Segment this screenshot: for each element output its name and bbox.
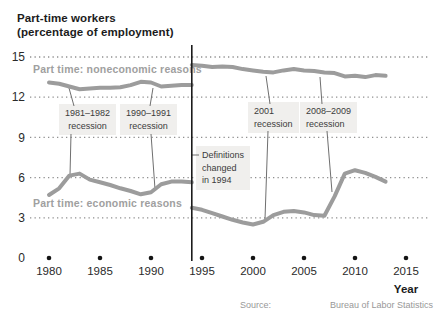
annotation-text: recession	[254, 118, 293, 131]
y-tick-0: 0	[0, 250, 25, 266]
annotation-text: Definitions	[202, 149, 244, 162]
title-line-2: (percentage of employment)	[17, 26, 174, 40]
y-tick-12: 12	[0, 89, 25, 105]
x-tick-2000: 2000	[233, 264, 273, 278]
y-tick-15: 15	[0, 49, 25, 65]
x-tick-1995: 1995	[182, 264, 222, 278]
y-tick-3: 3	[0, 210, 25, 226]
source-text: Bureau of Labor Statistics	[330, 300, 433, 309]
annotation-text: changed	[202, 162, 244, 175]
annotation-text: 1981–1982	[65, 107, 110, 120]
series-label-economic: Part time: economic reasons	[33, 197, 182, 209]
x-axis-title: Year	[386, 283, 426, 295]
annotation-recession-1990-1991: 1990–1991 recession	[120, 104, 177, 135]
y-tick-9: 9	[0, 130, 25, 146]
annotation-recession-2008-2009: 2008–2009 recession	[300, 102, 357, 133]
annotation-text: in 1994	[202, 174, 244, 187]
annotation-text: recession	[306, 118, 351, 131]
annotation-text: 2001	[254, 105, 293, 118]
title-line-1: Part-time workers	[17, 12, 174, 26]
annotation-text: recession	[65, 120, 110, 133]
annotation-text: 1990–1991	[126, 107, 171, 120]
source-line: Source: Bureau of Labor Statistics	[0, 300, 448, 309]
x-tick-1990: 1990	[131, 264, 171, 278]
part-time-workers-chart: Part-time workers (percentage of employm…	[0, 0, 448, 309]
x-tick-2010: 2010	[335, 264, 375, 278]
x-tick-2015: 2015	[386, 264, 426, 278]
source-label: Source:	[240, 300, 271, 309]
annotation-text: recession	[126, 120, 171, 133]
annotation-text: 2008–2009	[306, 105, 351, 118]
page-title: Part-time workers (percentage of employm…	[17, 12, 174, 39]
x-tick-1985: 1985	[80, 264, 120, 278]
annotation-recession-1981-1982: 1981–1982 recession	[59, 104, 116, 135]
annotation-recession-2001: 2001 recession	[248, 102, 299, 133]
series-label-noneconomic: Part time: noneconomic reasons	[33, 63, 202, 75]
annotation-definitions-changed: Definitions changed in 1994	[196, 146, 250, 190]
x-tick-2005: 2005	[284, 264, 324, 278]
x-tick-1980: 1980	[29, 264, 69, 278]
y-tick-6: 6	[0, 170, 25, 186]
